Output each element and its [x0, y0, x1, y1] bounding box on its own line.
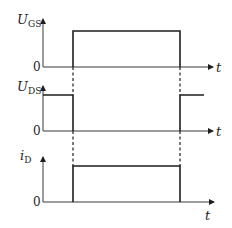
uds-waveform-before	[43, 95, 73, 131]
panel-ugs: UGS 0 t	[17, 12, 222, 75]
panel-uds: UDS 0 t	[17, 79, 222, 139]
id-t-label: t	[205, 208, 211, 223]
ugs-t-label: t	[216, 60, 222, 75]
id-waveform	[73, 166, 180, 202]
uds-t-label: t	[216, 124, 222, 139]
panel-id: iD 0 t	[20, 148, 214, 223]
timing-diagram: UGS 0 t UDS 0 t iD 0 t	[0, 0, 232, 228]
uds-waveform-after	[180, 95, 204, 131]
uds-label: UDS	[17, 79, 41, 96]
id-zero-label: 0	[33, 195, 41, 209]
ugs-waveform	[73, 31, 180, 67]
id-label: iD	[20, 148, 31, 165]
uds-zero-label: 0	[33, 124, 41, 138]
ugs-label: UGS	[17, 12, 41, 29]
ugs-zero-label: 0	[33, 60, 41, 74]
